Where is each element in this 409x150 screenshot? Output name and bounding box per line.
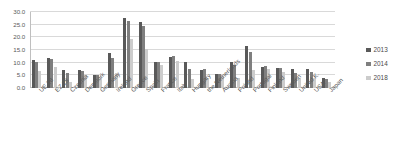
y-axis-tick-label: 10.0: [13, 60, 25, 66]
legend-swatch-icon: [366, 48, 371, 53]
legend-item-label: 2018: [374, 75, 388, 81]
legend-swatch-icon: [366, 62, 371, 67]
bar-group: [184, 12, 197, 88]
legend-item[interactable]: 2014: [366, 57, 408, 71]
y-axis: 0.05.010.015.020.025.030.0: [0, 12, 28, 88]
plot-area: [30, 12, 335, 88]
y-axis-tick-label: 20.0: [13, 34, 25, 40]
legend-item-label: 2014: [374, 61, 388, 67]
bar-chart: 0.05.010.015.020.025.030.0 UE 28EZ 18Cze…: [0, 0, 409, 150]
bar-group: [32, 12, 45, 88]
x-axis: UE 28EZ 18CzechiaDenmarkGermanyIrelandGr…: [30, 89, 335, 147]
legend-item[interactable]: 2018: [366, 71, 408, 85]
legend-item-label: 2013: [374, 47, 388, 53]
bar-group: [321, 12, 334, 88]
y-axis-tick-label: 25.0: [13, 22, 25, 28]
y-axis-tick-label: 30.0: [13, 9, 25, 15]
bars-layer: [30, 12, 335, 88]
legend: 201320142018: [366, 43, 408, 85]
y-axis-tick-label: 0.0: [17, 85, 25, 91]
y-axis-tick-label: 5.0: [17, 72, 25, 78]
bar: [145, 49, 148, 88]
y-axis-tick-label: 15.0: [13, 47, 25, 53]
legend-item[interactable]: 2013: [366, 43, 408, 57]
legend-swatch-icon: [366, 76, 371, 81]
